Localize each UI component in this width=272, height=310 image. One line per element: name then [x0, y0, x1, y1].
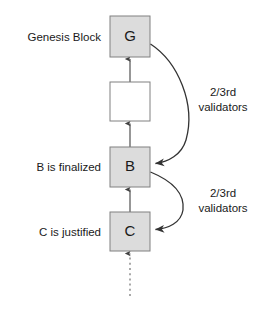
finality-diagram: G B C Genesis Block B is finalized C is … [0, 0, 272, 310]
validator-annotation-group: 2/3rd validators 2/3rd validators [198, 86, 247, 214]
block-genesis-letter: G [124, 27, 136, 44]
block-b-letter: B [125, 157, 135, 174]
label-b-is-finalized: B is finalized [36, 161, 101, 173]
supermajority-genesis-to-b [151, 44, 189, 164]
diagram-canvas: G B C Genesis Block B is finalized C is … [0, 0, 272, 310]
annotation-validators-upper-line2: validators [198, 101, 247, 113]
annotation-validators-lower-line2: validators [198, 202, 247, 214]
block-intermediate [110, 82, 150, 121]
supermajority-b-to-c [151, 172, 184, 230]
block-label-group: Genesis Block B is finalized C is justif… [27, 31, 101, 238]
label-c-is-justified: C is justified [39, 226, 101, 238]
label-genesis-block: Genesis Block [27, 31, 101, 43]
supermajority-link-group [151, 44, 189, 230]
block-c-letter: C [125, 222, 136, 239]
annotation-validators-lower-line1: 2/3rd [210, 187, 236, 199]
annotation-validators-upper-line1: 2/3rd [210, 86, 236, 98]
